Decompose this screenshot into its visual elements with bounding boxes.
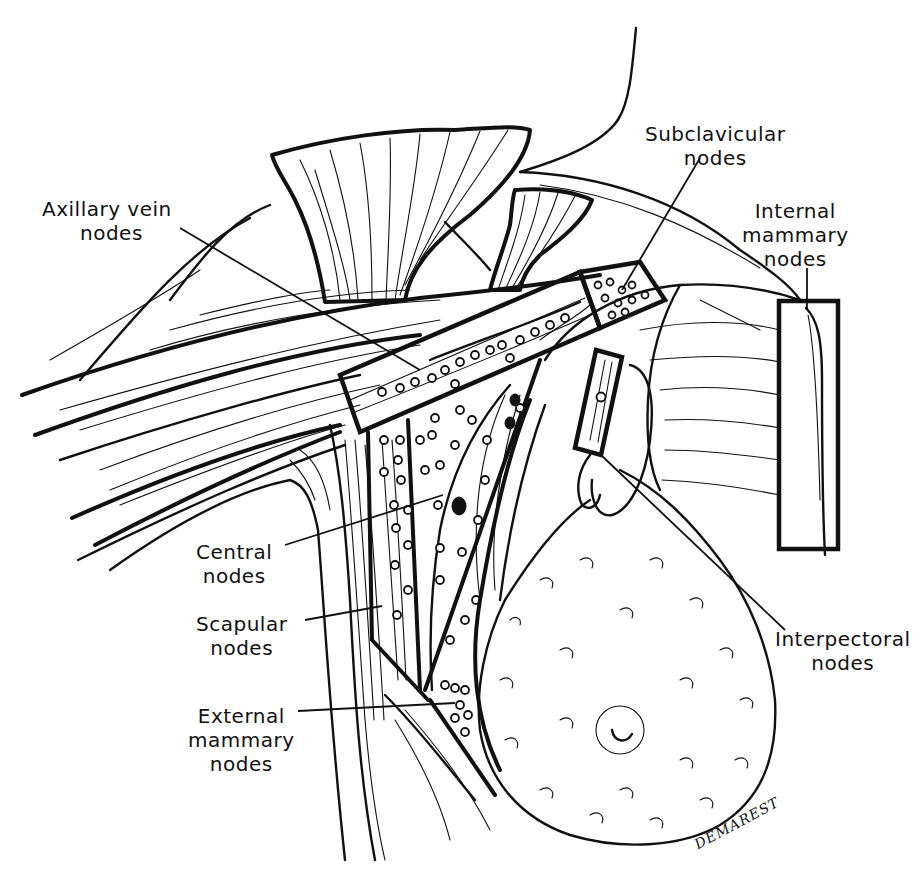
- breast: [479, 470, 776, 845]
- scapular-nodes-box: [368, 420, 428, 700]
- label-line: Interpectoral: [775, 627, 911, 651]
- subclavicular-nodes-box: [580, 262, 665, 328]
- label-line: Central: [196, 540, 272, 564]
- internal-mammary-nodes-box: [779, 301, 838, 555]
- leader-external-mammary: [298, 703, 455, 711]
- label-line: nodes: [775, 651, 911, 675]
- label-line: Internal: [742, 199, 849, 223]
- pectoralis-minor-muscle: [272, 127, 530, 302]
- label-interpectoral-nodes: Interpectoral nodes: [775, 627, 911, 675]
- label-line: Axillary vein: [42, 197, 172, 221]
- label-line: External: [188, 704, 295, 728]
- label-scapular-nodes: Scapular nodes: [196, 612, 287, 660]
- label-line: nodes: [42, 221, 172, 245]
- label-line: nodes: [196, 636, 287, 660]
- label-central-nodes: Central nodes: [196, 540, 272, 588]
- label-line: nodes: [196, 564, 272, 588]
- leader-interpectoral: [601, 455, 785, 630]
- label-line: mammary: [188, 728, 295, 752]
- label-line: nodes: [188, 752, 295, 776]
- label-line: Subclavicular: [645, 122, 785, 146]
- label-external-mammary-nodes: External mammary nodes: [188, 704, 295, 776]
- label-axillary-vein-nodes: Axillary vein nodes: [42, 197, 172, 245]
- label-line: nodes: [742, 247, 849, 271]
- nipple: [612, 730, 632, 740]
- label-line: Scapular: [196, 612, 287, 636]
- central-nodes-region: [416, 360, 540, 690]
- label-line: nodes: [645, 146, 785, 170]
- neck-contour: [520, 28, 636, 172]
- label-subclavicular-nodes: Subclavicular nodes: [645, 122, 785, 170]
- leader-subclavicular: [622, 158, 700, 290]
- leader-central: [285, 495, 443, 545]
- areola: [596, 706, 644, 754]
- label-internal-mammary-nodes: Internal mammary nodes: [742, 199, 849, 271]
- label-line: mammary: [742, 223, 849, 247]
